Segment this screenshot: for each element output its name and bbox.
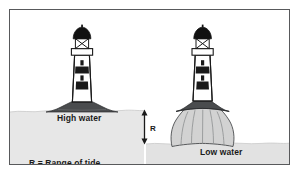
lighthouse-low-water [192, 25, 213, 101]
low-water-label: Low water [200, 147, 242, 157]
figure-frame: High water Low water R R = Range of tide [9, 9, 290, 165]
legend-label: R = Range of tide [29, 158, 100, 165]
diagram-scene: High water Low water R R = Range of tide [10, 10, 289, 164]
low-water-rock [171, 98, 234, 146]
diagram-canvas [10, 10, 289, 164]
range-marker-label: R [150, 124, 156, 133]
lighthouse-high-water [71, 25, 92, 102]
tidal-range-figure: High water Low water R R = Range of tide [0, 0, 301, 176]
high-water-label: High water [57, 113, 101, 123]
